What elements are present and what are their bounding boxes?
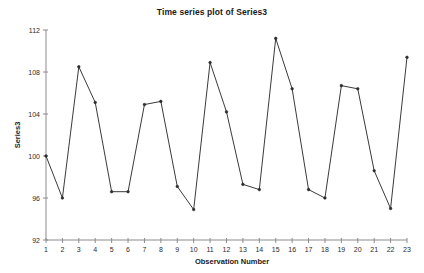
data-point bbox=[110, 190, 113, 193]
time-series-plot: 9296100104108112 12345678910111213141516… bbox=[0, 0, 424, 273]
x-tick-label: 17 bbox=[305, 246, 313, 253]
chart-page: Time series plot of Series3 929610010410… bbox=[0, 0, 424, 273]
x-tick-label: 4 bbox=[93, 246, 97, 253]
data-point bbox=[373, 169, 376, 172]
data-point bbox=[324, 197, 327, 200]
x-tick-label: 15 bbox=[272, 246, 280, 253]
data-point bbox=[78, 65, 81, 68]
y-tick-label: 96 bbox=[32, 195, 40, 202]
data-point bbox=[356, 88, 359, 91]
y-tick-label: 112 bbox=[29, 27, 40, 34]
x-tick-label: 20 bbox=[354, 246, 362, 253]
data-point bbox=[209, 61, 212, 64]
data-point bbox=[192, 208, 195, 211]
x-tick-label: 18 bbox=[321, 246, 329, 253]
data-point bbox=[274, 37, 277, 40]
x-axis-title: Observation Number bbox=[195, 257, 269, 266]
data-point bbox=[61, 197, 64, 200]
x-tick-label: 13 bbox=[239, 246, 247, 253]
x-tick-label: 5 bbox=[110, 246, 114, 253]
x-tick-label: 14 bbox=[255, 246, 263, 253]
data-point bbox=[291, 88, 294, 91]
data-point bbox=[389, 207, 392, 210]
x-tick-label: 2 bbox=[60, 246, 64, 253]
y-tick-label: 108 bbox=[28, 69, 40, 76]
x-tick-label: 7 bbox=[143, 246, 147, 253]
y-axis-title: Series3 bbox=[13, 122, 22, 149]
data-point bbox=[242, 183, 245, 186]
x-tick-label: 21 bbox=[370, 246, 378, 253]
x-tick-label: 6 bbox=[126, 246, 130, 253]
y-tick-label: 92 bbox=[32, 237, 40, 244]
x-tick-label: 3 bbox=[77, 246, 81, 253]
x-tick-label: 10 bbox=[190, 246, 198, 253]
x-tick-label: 19 bbox=[337, 246, 345, 253]
series-group bbox=[45, 37, 409, 211]
data-point bbox=[127, 190, 130, 193]
x-tick-label: 12 bbox=[223, 246, 231, 253]
data-point bbox=[340, 84, 343, 87]
x-tick-label: 8 bbox=[159, 246, 163, 253]
y-tick-label: 100 bbox=[28, 153, 40, 160]
data-point bbox=[94, 101, 97, 104]
data-point bbox=[406, 56, 409, 59]
data-point bbox=[258, 188, 261, 191]
data-point bbox=[225, 111, 228, 114]
series-line-series3 bbox=[46, 38, 407, 209]
x-tick-label: 1 bbox=[44, 246, 48, 253]
y-tick-label: 104 bbox=[28, 111, 40, 118]
x-tick-label: 9 bbox=[175, 246, 179, 253]
x-tick-label: 23 bbox=[403, 246, 411, 253]
data-point bbox=[143, 103, 146, 106]
x-tick-label: 16 bbox=[288, 246, 296, 253]
y-tick-group: 9296100104108112 bbox=[28, 27, 48, 244]
x-tick-label: 22 bbox=[387, 246, 395, 253]
data-point bbox=[45, 155, 48, 158]
x-tick-label: 11 bbox=[206, 246, 213, 253]
data-point bbox=[307, 188, 310, 191]
data-point bbox=[176, 185, 179, 188]
data-point bbox=[160, 100, 163, 103]
